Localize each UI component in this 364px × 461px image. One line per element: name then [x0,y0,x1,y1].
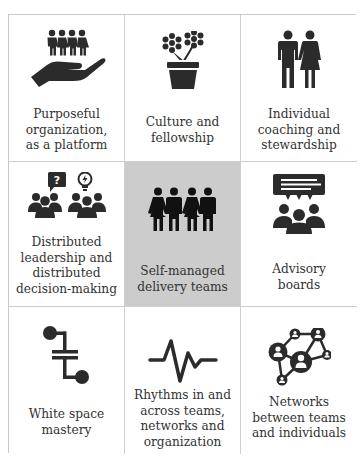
group-speech-bubble-icon [272,174,326,234]
man-woman-icon [274,30,324,90]
groups-question-idea-icon: ? [28,172,106,218]
cell-label: Purposeful organization, as a platform [13,107,120,154]
capabilities-grid: Purposeful organization, as a platform [8,14,356,453]
cell-advisory-boards: Advisory boards [241,162,357,307]
svg-text:?: ? [53,174,59,187]
hand-holding-people-icon [27,29,107,87]
cell-networks: Networks between teams and individuals [241,307,357,454]
cell-label: Advisory boards [245,262,353,293]
cell-distributed-leadership: ? Distributed leadership and distributed… [9,162,125,307]
connector-icon [42,324,92,386]
cell-label: Self-managed delivery teams [129,264,236,295]
flower-pot-icon [158,31,208,91]
cell-individual-coaching: Individual coaching and stewardship [241,15,357,162]
team-holding-hands-icon [147,187,219,231]
people-network-icon [267,328,331,388]
cell-purposeful-organization: Purposeful organization, as a platform [9,15,125,162]
cell-culture-fellowship: Culture and fellowship [125,15,241,162]
cell-label: Distributed leadership and distributed d… [13,235,120,297]
cell-label: Rhythms in and across teams, networks an… [129,388,236,450]
cell-self-managed-teams: Self-managed delivery teams [125,162,241,307]
cell-rhythms: Rhythms in and across teams, networks an… [125,307,241,454]
cell-label: Networks between teams and individuals [245,395,353,442]
heartbeat-wave-icon [148,337,218,385]
cell-label: Culture and fellowship [129,115,236,146]
cell-white-space-mastery: White space mastery [9,307,125,454]
cell-label: Individual coaching and stewardship [245,107,353,154]
cell-label: White space mastery [13,407,120,438]
